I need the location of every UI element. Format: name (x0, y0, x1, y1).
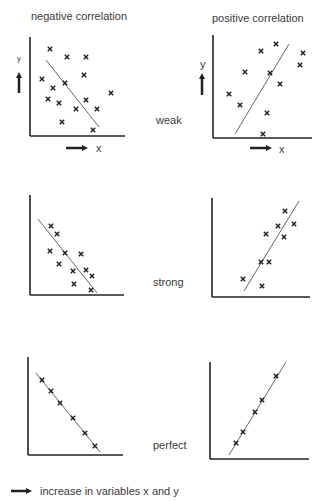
data-point-x-icon (63, 251, 67, 255)
data-point-x-icon (82, 73, 86, 77)
data-point-x-icon (243, 70, 247, 74)
trend-line (235, 44, 289, 134)
data-point-x-icon (57, 101, 61, 105)
data-point-x-icon (261, 132, 265, 136)
data-point-x-icon (51, 86, 55, 90)
data-point-x-icon (109, 91, 113, 95)
data-point-x-icon (40, 378, 44, 382)
data-point-x-icon (58, 401, 62, 405)
data-point-x-icon (241, 277, 245, 281)
data-point-x-icon (267, 260, 271, 264)
data-point-x-icon (57, 262, 61, 266)
arrow-up-icon (16, 72, 22, 78)
data-point-x-icon (274, 42, 278, 46)
data-point-x-icon (278, 82, 282, 86)
data-point-x-icon (264, 232, 268, 236)
arrow-up-icon (199, 73, 205, 79)
data-point-x-icon (283, 209, 287, 213)
trend-line (36, 373, 100, 452)
trend-line (46, 60, 99, 127)
data-point-x-icon (276, 224, 280, 228)
data-point-x-icon (292, 222, 296, 226)
data-point-x-icon (260, 284, 264, 288)
correlation-diagram (0, 0, 330, 501)
data-point-x-icon (79, 252, 83, 256)
data-point-x-icon (93, 444, 97, 448)
legend-arrow-right-icon (26, 488, 32, 494)
data-point-x-icon (89, 288, 93, 292)
data-point-x-icon (74, 107, 78, 111)
data-point-x-icon (238, 103, 242, 107)
data-point-x-icon (55, 232, 59, 236)
data-point-x-icon (241, 430, 245, 434)
data-point-x-icon (84, 55, 88, 59)
data-point-x-icon (90, 274, 94, 278)
data-point-x-icon (234, 441, 238, 445)
data-point-x-icon (49, 224, 53, 228)
data-point-x-icon (91, 128, 95, 132)
data-point-x-icon (46, 97, 50, 101)
data-point-x-icon (253, 410, 257, 414)
data-point-x-icon (298, 63, 302, 67)
data-point-x-icon (40, 77, 44, 81)
arrow-right-icon (266, 145, 272, 151)
data-point-x-icon (72, 282, 76, 286)
data-point-x-icon (60, 120, 64, 124)
data-point-x-icon (49, 389, 53, 393)
data-point-x-icon (65, 55, 69, 59)
data-point-x-icon (84, 98, 88, 102)
trend-line (38, 219, 97, 293)
data-point-x-icon (71, 269, 75, 273)
data-point-x-icon (84, 268, 88, 272)
data-point-x-icon (265, 111, 269, 115)
data-point-x-icon (95, 107, 99, 111)
data-point-x-icon (71, 416, 75, 420)
data-point-x-icon (227, 92, 231, 96)
data-point-x-icon (259, 49, 263, 53)
data-point-x-icon (282, 235, 286, 239)
data-point-x-icon (83, 431, 87, 435)
data-point-x-icon (301, 51, 305, 55)
arrow-right-icon (82, 145, 88, 151)
data-point-x-icon (48, 47, 52, 51)
trend-line (244, 201, 299, 291)
data-point-x-icon (48, 249, 52, 253)
